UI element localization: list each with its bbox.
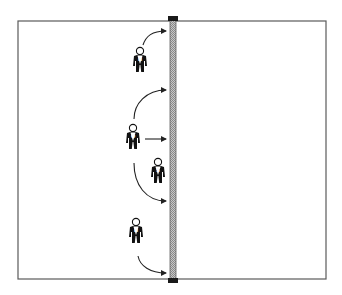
net-post-top — [168, 16, 178, 21]
net — [170, 19, 176, 281]
jersey-label: O — [131, 133, 135, 139]
jersey-label: H — [138, 56, 142, 62]
arrow-bottom-hitter-icon — [138, 256, 166, 273]
net-post-bottom — [168, 278, 178, 283]
jersey-label: H — [134, 227, 138, 233]
player-setter: S — [151, 158, 165, 183]
arrow-top-hitter-icon — [143, 31, 166, 45]
jersey-label: S — [156, 167, 160, 173]
volleyball-court-diagram: H O S H — [0, 0, 342, 295]
player-middle-hitter: O — [126, 124, 140, 149]
player-top-hitter: H — [133, 47, 147, 72]
player-bottom-hitter: H — [129, 218, 143, 243]
arrow-middle-up-icon — [134, 90, 166, 119]
